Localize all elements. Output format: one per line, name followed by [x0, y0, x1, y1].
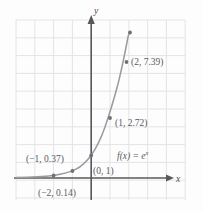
y-axis-label: y [93, 6, 99, 16]
x-axis-label: x [175, 174, 181, 184]
function-label: f(x) = ex [117, 149, 149, 162]
function-exponent: x [145, 149, 149, 156]
data-point [52, 174, 56, 178]
svg-text:f(x) = ex: f(x) = ex [117, 149, 149, 162]
point-label-neg1-037: (−1, 0.37) [26, 154, 64, 165]
function-notation: f(x) = e [117, 151, 146, 162]
point-label-2-739: (2, 7.39) [131, 57, 163, 68]
point-label-0-1: (0, 1) [93, 166, 114, 177]
point-label-1-272: (1, 2.72) [115, 118, 147, 129]
graph-canvas: (2, 7.39) (1, 2.72) (0, 1) (−1, 0.37) (−… [0, 0, 203, 213]
exponential-function-figure: (2, 7.39) (1, 2.72) (0, 1) (−1, 0.37) (−… [0, 0, 203, 213]
data-point [89, 154, 93, 158]
data-point [108, 116, 112, 120]
data-point [125, 60, 129, 64]
data-point [71, 169, 75, 173]
point-label-neg2-014: (−2, 0.14) [38, 188, 76, 199]
